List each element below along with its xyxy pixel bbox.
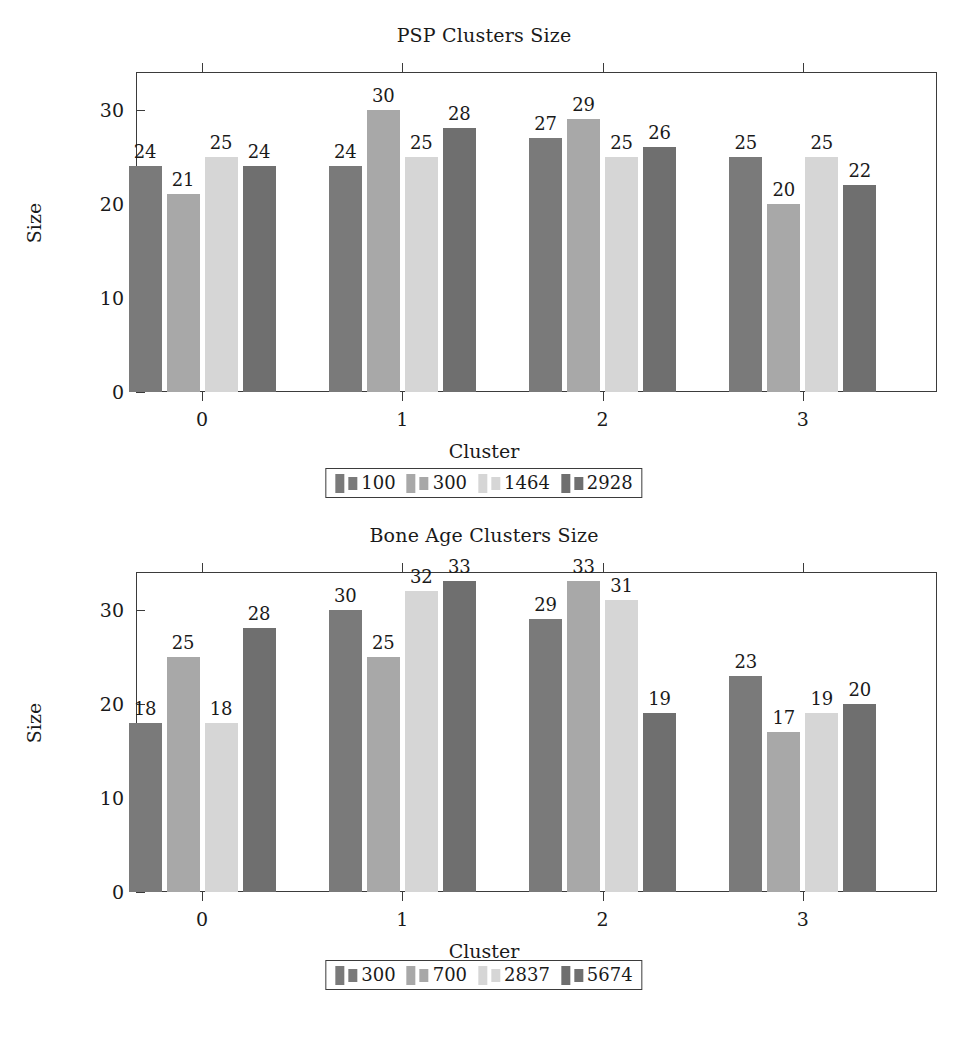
x-axis-label: Cluster <box>0 940 968 962</box>
bar <box>805 713 838 892</box>
legend-color-swatch <box>420 969 429 982</box>
x-axis-tick-mark <box>803 392 804 401</box>
x-axis-tick-mark <box>603 892 604 901</box>
legend-entry: 300 <box>335 966 406 985</box>
legend-color-swatch <box>491 969 500 982</box>
bar-value-label: 30 <box>372 85 395 106</box>
bar-value-label: 19 <box>648 688 671 709</box>
bar <box>567 119 600 392</box>
chart-legend: 10030014642928 <box>325 468 642 498</box>
bar <box>643 713 676 892</box>
bar-value-label: 33 <box>572 556 595 577</box>
bar <box>129 166 162 392</box>
bar-value-label: 28 <box>448 103 471 124</box>
legend-label: 5674 <box>587 966 633 984</box>
legend-swatch-pair <box>478 474 500 493</box>
legend-swatch-pair <box>335 966 357 985</box>
bar-value-label: 25 <box>172 632 195 653</box>
bar <box>205 157 238 392</box>
y-axis-tick-label: 20 <box>80 694 124 713</box>
bar <box>805 157 838 392</box>
bar-value-label: 25 <box>734 132 757 153</box>
legend-entry: 100 <box>335 474 406 493</box>
legend-entry: 2837 <box>478 966 561 985</box>
bar-value-label: 32 <box>410 566 433 587</box>
legend-entry: 5674 <box>561 966 633 985</box>
legend-entry: 300 <box>407 474 478 493</box>
bar <box>529 138 562 392</box>
bar-value-label: 18 <box>210 698 233 719</box>
bar-value-label: 31 <box>610 575 633 596</box>
legend-color-swatch <box>478 474 487 493</box>
bar <box>443 128 476 392</box>
legend-color-swatch <box>407 966 416 985</box>
bar <box>529 619 562 892</box>
bar <box>729 676 762 892</box>
legend-entry: 2928 <box>561 474 633 493</box>
legend-label: 300 <box>433 474 467 492</box>
x-axis-tick-label: 3 <box>773 908 833 930</box>
legend-color-swatch <box>478 966 487 985</box>
bar-value-label: 20 <box>848 679 871 700</box>
legend-color-swatch <box>335 966 344 985</box>
legend-color-swatch <box>348 477 357 490</box>
x-axis-tick-label: 0 <box>172 408 232 430</box>
legend-color-swatch <box>574 969 583 982</box>
legend-color-swatch <box>348 969 357 982</box>
x-axis-tick-label: 3 <box>773 408 833 430</box>
legend-label: 300 <box>361 966 395 984</box>
legend-swatch-pair <box>561 966 583 985</box>
y-axis-tick-mark <box>136 392 145 393</box>
y-axis-tick-mark <box>136 892 145 893</box>
x-axis-tick-mark-top <box>603 563 604 572</box>
legend-label: 1464 <box>504 474 550 492</box>
figure-root: PSP Clusters Size Size 01020300123Cluste… <box>0 0 968 1042</box>
bar-value-label: 19 <box>810 688 833 709</box>
bar <box>605 600 638 892</box>
x-axis-tick-label: 2 <box>573 908 633 930</box>
bar <box>767 732 800 892</box>
legend-label: 100 <box>361 474 395 492</box>
bar-value-label: 30 <box>334 585 357 606</box>
x-axis-tick-mark-top <box>202 563 203 572</box>
bar-value-label: 29 <box>572 94 595 115</box>
bar <box>405 157 438 392</box>
bar-value-label: 21 <box>172 169 195 190</box>
x-axis-label: Cluster <box>0 440 968 462</box>
legend-label: 700 <box>433 966 467 984</box>
bar <box>843 704 876 892</box>
bar-value-label: 26 <box>648 122 671 143</box>
y-axis-tick-label: 10 <box>80 288 124 307</box>
bar <box>329 610 362 892</box>
legend-swatch-pair <box>407 474 429 493</box>
bar-value-label: 17 <box>772 707 795 728</box>
x-axis-tick-mark <box>202 892 203 901</box>
legend-color-swatch <box>407 474 416 493</box>
bar <box>367 110 400 392</box>
bar <box>405 591 438 892</box>
bar <box>129 723 162 892</box>
bar <box>729 157 762 392</box>
bar <box>443 581 476 892</box>
bar-value-label: 33 <box>448 556 471 577</box>
legend-swatch-pair <box>335 474 357 493</box>
x-axis-tick-mark-top <box>402 63 403 72</box>
chart-legend: 30070028375674 <box>325 960 642 990</box>
x-axis-tick-label: 0 <box>172 908 232 930</box>
x-axis-tick-mark <box>402 392 403 401</box>
bar <box>205 723 238 892</box>
legend-color-swatch <box>561 966 570 985</box>
legend-swatch-pair <box>478 966 500 985</box>
legend-entry: 1464 <box>478 474 561 493</box>
bar <box>243 166 276 392</box>
bar <box>243 628 276 892</box>
x-axis-tick-mark <box>402 892 403 901</box>
chart-title: PSP Clusters Size <box>0 24 968 46</box>
legend-swatch-pair <box>561 474 583 493</box>
x-axis-tick-mark-top <box>202 63 203 72</box>
legend-color-swatch <box>420 477 429 490</box>
y-axis-tick-mark <box>136 110 145 111</box>
legend-entry: 700 <box>407 966 478 985</box>
bar <box>767 204 800 392</box>
chart-title: Bone Age Clusters Size <box>0 524 968 546</box>
